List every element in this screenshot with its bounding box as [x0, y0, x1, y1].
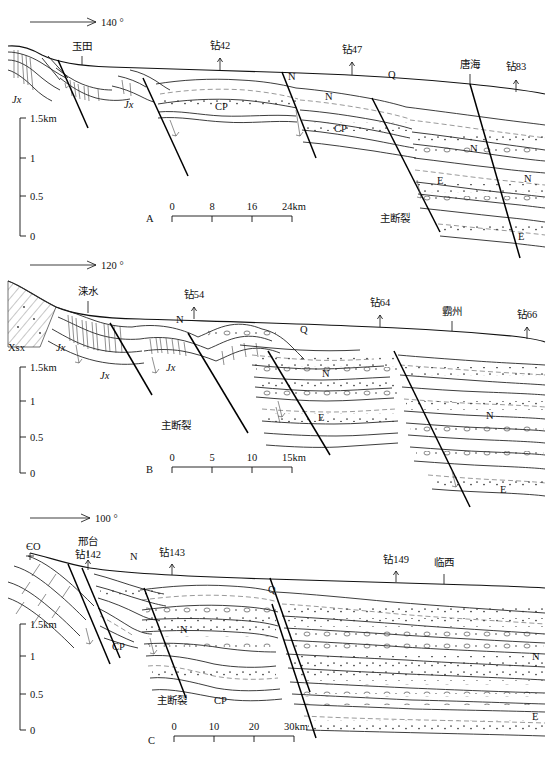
- scale-tick-label: 0: [169, 452, 174, 463]
- cross-section-panel-a: 140 °: [0, 0, 550, 260]
- axis-tick-label: 0.5: [30, 191, 43, 202]
- scale-tick-label: 0: [171, 721, 176, 732]
- unit-label-e: E: [532, 711, 538, 722]
- axis-tick-label: 1: [30, 396, 35, 407]
- scale-tick-label: 10: [247, 452, 258, 463]
- unit-label-cp-1: CP: [215, 101, 228, 112]
- marker-label: 钻47: [342, 43, 363, 55]
- unit-label-n-2: N: [180, 624, 188, 635]
- unit-label-jx-2: Jx: [100, 370, 110, 381]
- marker-borehole-zuan142: 钻142: [75, 548, 101, 570]
- azimuth-indicator-a: 140 °: [30, 17, 124, 28]
- scale-tick-label: 20: [249, 721, 260, 732]
- fault-label-main: 主断裂: [161, 419, 192, 431]
- unit-label-n-3: N: [470, 143, 478, 154]
- unit-label-n-4: N: [524, 173, 532, 184]
- unit-label-co: ЄO: [26, 541, 41, 552]
- surface-markers-b: 涞水 钻54 钻64 霸州 钻66: [78, 286, 537, 339]
- basement-carbonate-c: [8, 553, 94, 648]
- marker-borehole-zuan64: 钻64: [370, 296, 391, 327]
- marker-borehole-zuan42: 钻42: [210, 39, 231, 70]
- fault-label-main: 主断裂: [157, 694, 188, 706]
- marker-borehole-zuan47: 钻47: [342, 43, 363, 75]
- unit-label-q: Q: [300, 324, 308, 335]
- unit-cp-center-c: [140, 585, 282, 701]
- unit-label-n-3: N: [532, 651, 540, 662]
- cross-section-panel-b: 120 °: [0, 255, 550, 510]
- scale-tick-label: 5: [209, 452, 214, 463]
- scale-bar-c: 0 10 20 30km: [171, 721, 308, 742]
- vertical-axis-a: 1.5km 1 0.5 0: [20, 113, 57, 242]
- azimuth-label: 120 °: [101, 260, 124, 271]
- marker-town-bazhou: 霸州: [442, 306, 462, 331]
- unit-label-jx-1: Jx: [12, 94, 22, 105]
- unit-label-n-1: N: [288, 71, 296, 82]
- marker-borehole-zuan83: 钻83: [506, 60, 527, 92]
- scale-tick-label: 24km: [282, 201, 306, 212]
- marker-label: 霸州: [442, 306, 462, 317]
- scale-tick-label: 8: [209, 201, 214, 212]
- basement-block-a: [8, 50, 170, 102]
- unit-label-cp-1: CP: [112, 641, 125, 652]
- marker-label: 钻54: [184, 288, 205, 300]
- marker-borehole-zuan149: 钻149: [383, 553, 409, 582]
- marker-label: 邢台: [78, 535, 98, 547]
- axis-tick-label: 0: [30, 725, 35, 736]
- unit-label-n-1: N: [176, 314, 184, 325]
- axis-tick-label: 0: [30, 468, 35, 479]
- axis-tick-label: 1.5km: [30, 362, 57, 373]
- panel-letter-c: C: [148, 735, 155, 746]
- unit-label-e-2: E: [518, 231, 524, 242]
- marker-label: 钻83: [506, 60, 527, 72]
- marker-label: 钻66: [517, 308, 538, 320]
- unit-label-cp-2: CP: [334, 123, 347, 134]
- vertical-axis-c: 1.5km 1 0.5 0: [20, 619, 57, 736]
- marker-label: 涞水: [78, 286, 99, 297]
- scale-bar-a: 0 8 16 24km: [169, 201, 306, 222]
- marker-label: 玉田: [72, 41, 92, 52]
- unit-label-jx-1: Jx: [56, 342, 66, 353]
- scale-tick-label: 10: [209, 721, 220, 732]
- cross-section-panel-c: 100 °: [0, 508, 550, 759]
- unit-label-n-2: N: [325, 91, 333, 102]
- marker-label: 钻64: [370, 296, 391, 308]
- azimuth-indicator-c: 100 °: [30, 513, 118, 524]
- panel-letter-b: B: [146, 464, 153, 475]
- unit-label-q: Q: [388, 69, 396, 80]
- axis-tick-label: 1.5km: [30, 113, 57, 124]
- unit-label-q: Q: [268, 584, 276, 595]
- marker-label: 钻142: [75, 548, 101, 560]
- unit-label-e-1: E: [318, 412, 324, 423]
- unit-label-e-1: E: [437, 175, 443, 186]
- unit-label-e-2: E: [500, 484, 506, 495]
- fault-label-main: 主断裂: [380, 212, 411, 224]
- marker-town-laishui: 涞水: [78, 286, 99, 313]
- unit-label-jx-2: Jx: [124, 99, 134, 110]
- marker-town-yutian: 玉田: [72, 41, 92, 65]
- marker-town-linxi: 临西: [434, 556, 454, 584]
- marker-borehole-zuan143: 钻143: [159, 546, 185, 575]
- azimuth-indicator-b: 120 °: [30, 260, 124, 271]
- azimuth-label: 100 °: [95, 513, 118, 524]
- vertical-axis-b: 1.5km 1 0.5 0: [20, 362, 57, 479]
- unit-n-central-a: [296, 88, 416, 158]
- scale-tick-label: 16: [247, 201, 258, 212]
- marker-label: 钻143: [159, 546, 185, 558]
- axis-tick-label: 0.5: [30, 689, 43, 700]
- graben-fill-b: [240, 345, 398, 447]
- marker-label: 唐海: [460, 58, 481, 70]
- axis-tick-label: 0: [30, 231, 35, 242]
- marker-label: 钻149: [383, 553, 409, 565]
- scale-tick-label: 30km: [284, 721, 308, 732]
- azimuth-label: 140 °: [101, 17, 124, 28]
- marker-town-tanghai: 唐海: [460, 58, 481, 84]
- axis-tick-label: 1: [30, 153, 35, 164]
- axis-tick-label: 1.5km: [30, 619, 57, 630]
- unit-label-cp-2: CP: [214, 695, 227, 706]
- scale-tick-label: 15km: [282, 452, 306, 463]
- basement-hatched-b: [8, 281, 56, 347]
- right-block-b: [398, 355, 545, 496]
- panel-letter-a: A: [146, 213, 154, 224]
- unit-label-xsx: Xsx: [8, 342, 26, 353]
- axis-tick-label: 0.5: [30, 432, 43, 443]
